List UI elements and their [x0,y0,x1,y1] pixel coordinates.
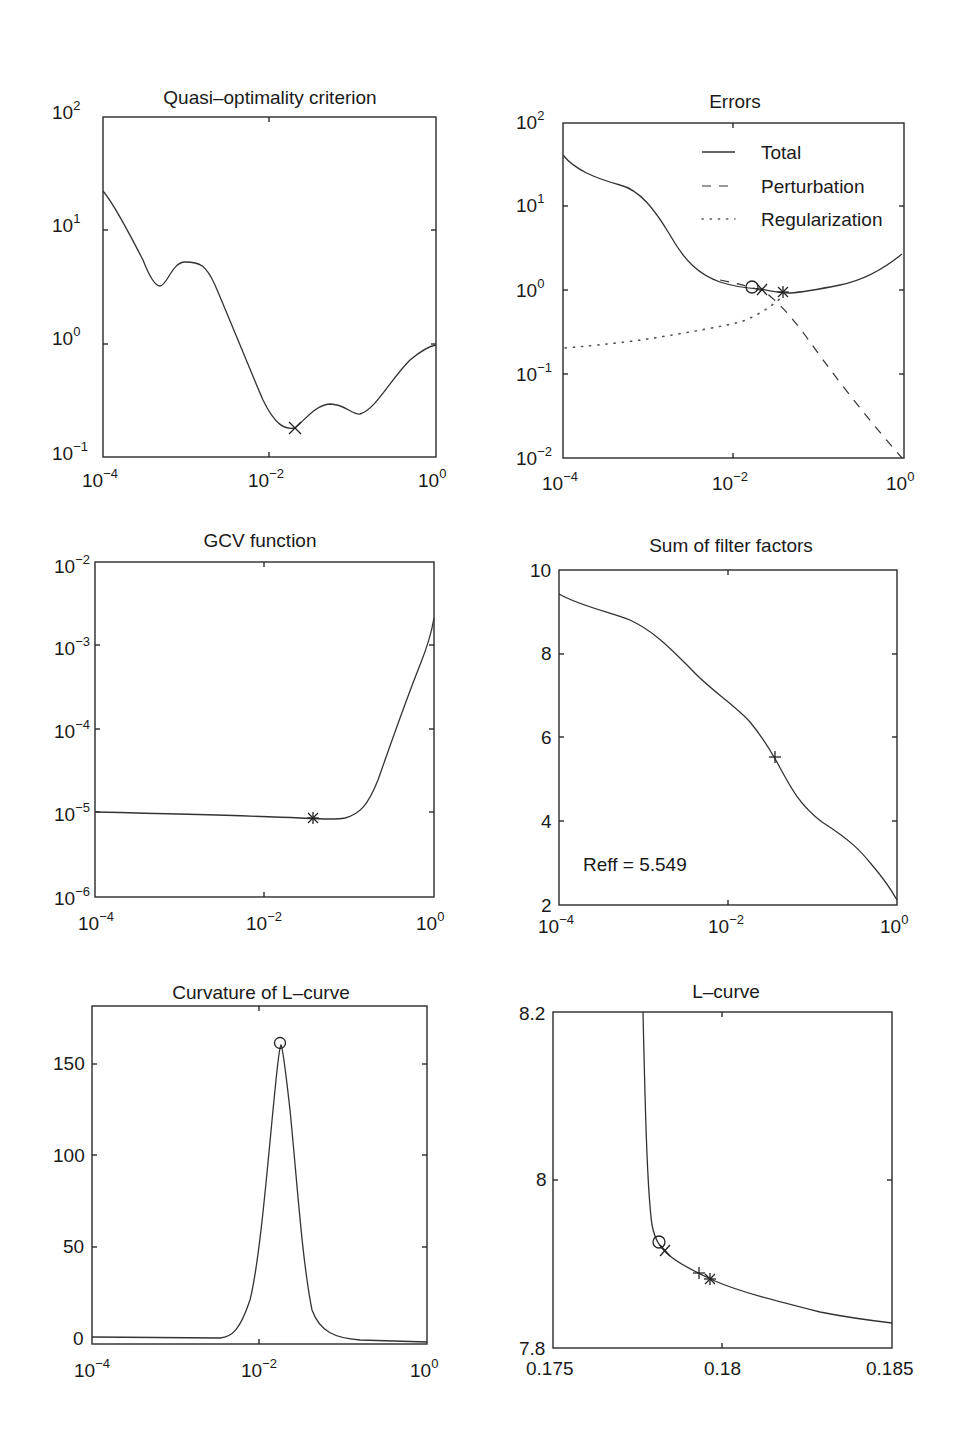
plot-area [103,117,436,457]
l-curve [643,1012,892,1323]
gcv-curve [95,618,434,819]
x-tick-labels: 10−4 10−2 100 [78,909,444,934]
svg-text:10−4: 10−4 [538,912,574,937]
svg-text:10−4: 10−4 [54,717,90,742]
y-tick-labels: 150 100 50 0 [53,1053,85,1349]
circle-marker [746,281,758,293]
svg-text:100: 100 [52,324,80,349]
x-tick-labels: 0.175 0.18 0.185 [526,1358,914,1379]
svg-text:10−2: 10−2 [708,912,744,937]
svg-text:8: 8 [541,643,552,664]
markers [746,281,789,298]
panel-quasi-optimality: Quasi–optimality criterion 102 101 100 1… [52,87,446,491]
svg-text:6: 6 [541,727,552,748]
svg-text:10−1: 10−1 [52,439,88,464]
regularization-error-curve [565,296,783,348]
legend: Total Perturbation Regularization [702,142,882,230]
svg-text:0.18: 0.18 [704,1358,741,1379]
svg-text:102: 102 [52,98,80,123]
svg-text:10−2: 10−2 [246,909,282,934]
svg-text:100: 100 [886,469,914,494]
panel-title: L–curve [692,981,760,1002]
plot-area [92,1006,427,1344]
reff-annotation: Reff = 5.549 [583,854,687,875]
svg-text:100: 100 [516,276,544,301]
svg-text:10−2: 10−2 [248,466,284,491]
panel-gcv: GCV function 10−2 10−3 10−4 10−5 10−6 10… [54,530,444,934]
plus-marker [693,1267,705,1279]
svg-text:0.185: 0.185 [866,1358,914,1379]
legend-label-regularization: Regularization [761,209,882,230]
x-tick-labels: 10−4 10−2 100 [538,912,908,937]
svg-text:50: 50 [63,1236,84,1257]
svg-text:100: 100 [53,1145,85,1166]
svg-text:8.2: 8.2 [519,1003,545,1024]
svg-text:10−4: 10−4 [74,1356,110,1381]
panel-title: Sum of filter factors [649,535,813,556]
svg-text:10−6: 10−6 [54,884,90,909]
star-marker [777,286,789,298]
circle-marker [653,1236,665,1248]
svg-text:8: 8 [536,1169,547,1190]
plot-area [563,123,904,458]
panel-l-curve: L–curve 8.2 8 7.8 0.175 0.18 0.185 [519,981,914,1379]
y-tick-labels: 8.2 8 7.8 [519,1003,547,1359]
curvature-curve [92,1045,427,1342]
panel-title: Errors [709,91,761,112]
legend-label-perturbation: Perturbation [761,176,865,197]
panel-errors: Errors 102 101 100 10−1 10−2 10−4 10−2 1… [516,91,914,494]
svg-text:0.175: 0.175 [526,1358,574,1379]
svg-text:100: 100 [880,912,908,937]
svg-text:10−2: 10−2 [54,552,90,577]
plus-marker [769,751,781,763]
svg-text:7.8: 7.8 [519,1338,545,1359]
panel-filter-factors: Sum of filter factors 10 8 6 4 2 10−4 10… [530,535,908,937]
panel-curvature: Curvature of L–curve 150 100 50 0 10−4 1… [53,982,438,1381]
legend-label-total: Total [761,142,801,163]
svg-text:100: 100 [416,909,444,934]
svg-text:100: 100 [410,1356,438,1381]
figure-canvas: Quasi–optimality criterion 102 101 100 1… [0,0,969,1455]
plot-area [95,562,434,897]
svg-text:2: 2 [541,895,552,916]
quasi-optimality-curve [103,191,436,428]
x-marker [660,1245,670,1256]
x-tick-labels: 10−4 10−2 100 [82,466,446,491]
plot-area [553,1012,892,1348]
svg-text:100: 100 [418,466,446,491]
svg-text:10−4: 10−4 [82,466,118,491]
svg-text:10−2: 10−2 [241,1356,277,1381]
perturbation-error-curve [720,280,902,458]
svg-text:0: 0 [73,1328,84,1349]
x-tick-labels: 10−4 10−2 100 [542,469,914,494]
y-tick-labels: 10 8 6 4 2 [530,560,552,916]
svg-text:10−3: 10−3 [54,634,90,659]
svg-text:10−4: 10−4 [542,469,578,494]
svg-text:10−2: 10−2 [712,469,748,494]
svg-text:10−4: 10−4 [78,909,114,934]
svg-text:10−2: 10−2 [516,444,552,469]
svg-text:10−1: 10−1 [516,360,552,385]
star-marker [307,812,319,824]
svg-text:101: 101 [52,211,80,236]
ticks [103,117,436,457]
svg-text:150: 150 [53,1053,85,1074]
panel-title: Quasi–optimality criterion [163,87,376,108]
svg-text:10−5: 10−5 [54,800,90,825]
svg-text:10: 10 [530,560,551,581]
svg-text:102: 102 [516,108,544,133]
svg-text:101: 101 [516,191,544,216]
star-marker [704,1273,716,1285]
svg-text:4: 4 [541,811,552,832]
panel-title: GCV function [204,530,317,551]
panel-title: Curvature of L–curve [172,982,349,1003]
y-tick-labels: 102 101 100 10−1 [52,98,88,464]
y-tick-labels: 10−2 10−3 10−4 10−5 10−6 [54,552,90,909]
y-tick-labels: 102 101 100 10−1 10−2 [516,108,552,469]
x-tick-labels: 10−4 10−2 100 [74,1356,438,1381]
